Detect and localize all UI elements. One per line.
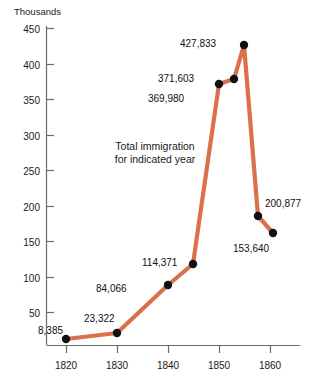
- data-point-1855: [240, 41, 248, 49]
- data-point-markers: [62, 41, 277, 343]
- data-line-series: [66, 45, 273, 339]
- data-point-1840: [164, 281, 172, 289]
- data-point-1820: [62, 335, 70, 343]
- data-point-1860: [269, 229, 277, 237]
- data-point-1858: [254, 212, 262, 220]
- data-point-1853: [230, 75, 238, 83]
- immigration-line-chart: Thousands 450 400 350 300 250 200 150 10…: [0, 0, 324, 380]
- plot-area: [0, 0, 324, 380]
- data-point-1850: [215, 80, 223, 88]
- x-axis-ticks: [67, 346, 271, 354]
- data-point-1830: [113, 329, 121, 337]
- y-axis-ticks: [47, 29, 55, 313]
- data-point-1845: [189, 260, 197, 268]
